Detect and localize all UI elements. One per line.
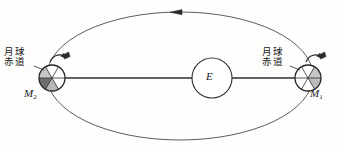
moon-m1-equator-leader <box>290 66 300 70</box>
moon-m2-symbol-label: M2 <box>24 88 37 101</box>
moon-m2-group <box>34 52 70 91</box>
orbit-direction-arrow-icon <box>170 10 182 15</box>
moon-orbit-ellipse <box>47 12 313 140</box>
moon-m2-symbol: M <box>24 87 33 99</box>
moon-m2-equator-label: 月球 赤道 <box>4 47 25 67</box>
moon-m2-equator-label-line2: 赤道 <box>4 57 25 67</box>
moon-m2-equator-leader <box>34 66 44 70</box>
figure-canvas: 月球 赤道 月球 赤道 M2 M1 E <box>0 0 338 152</box>
diagram-svg <box>0 0 338 152</box>
moon-m2-rotation-arrow-icon <box>50 52 70 62</box>
moon-m1-equator-label-line2: 赤道 <box>262 57 283 67</box>
moon-m2-subscript: 2 <box>33 93 37 101</box>
moon-m1-equator-label: 月球 赤道 <box>262 47 283 67</box>
earth-symbol-label: E <box>206 71 213 83</box>
moon-m1-subscript: 1 <box>319 93 323 101</box>
moon-m1-group <box>290 52 326 91</box>
moon-m1-symbol: M <box>310 87 319 99</box>
moon-m1-symbol-label: M1 <box>310 88 323 101</box>
